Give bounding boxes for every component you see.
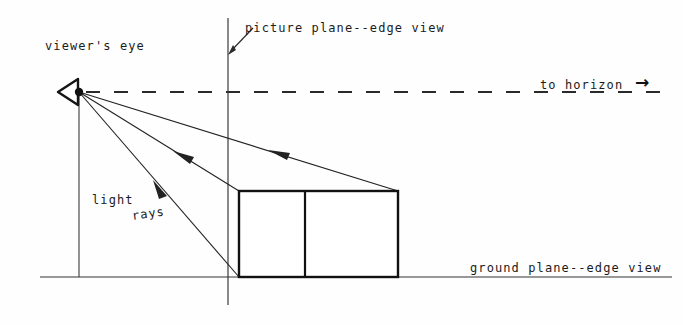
- eye-point-dot: [75, 88, 83, 96]
- diagram-canvas: viewer's eye picture plane--edge view to…: [0, 0, 683, 325]
- label-to-horizon: to horizon: [540, 79, 623, 91]
- label-light-rays-light: light: [92, 194, 134, 206]
- label-viewers-eye: viewer's eye: [45, 40, 145, 52]
- light-ray-to-box-top-left: [79, 92, 239, 191]
- object-box: [239, 191, 398, 277]
- horizon-arrow-icon: →: [635, 74, 649, 91]
- light-ray-to-box-bottom-left: [79, 92, 239, 277]
- label-picture-plane: picture plane--edge view: [245, 22, 445, 34]
- label-ground-plane: ground plane--edge view: [470, 262, 661, 274]
- light-ray-to-box-top-right: [79, 92, 398, 191]
